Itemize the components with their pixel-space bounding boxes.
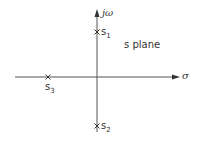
pole-s2-label: s2 — [101, 121, 111, 131]
pole-s1-subscript: 1 — [106, 32, 110, 40]
s-plane-diagram — [0, 0, 197, 141]
plane-label: s plane — [124, 40, 160, 50]
pole-s1-label: s1 — [101, 27, 111, 37]
imaginary-axis-label: jω — [102, 8, 113, 18]
pole-s3-label: s3 — [45, 82, 55, 92]
imaginary-axis-arrow-icon — [95, 9, 100, 17]
real-axis-arrow-icon — [172, 75, 180, 80]
real-axis-label: σ — [182, 71, 189, 81]
pole-s2-subscript: 2 — [106, 126, 110, 134]
pole-s3-subscript: 3 — [50, 87, 54, 95]
